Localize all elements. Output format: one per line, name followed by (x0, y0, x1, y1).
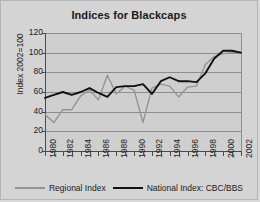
legend-label: National Index: CBC/BBS (147, 183, 243, 193)
series-layer (1, 1, 259, 201)
legend-entry[interactable]: Regional Index (15, 183, 106, 193)
legend-entry[interactable]: National Index: CBC/BBS (113, 183, 243, 193)
chart-legend: Regional IndexNational Index: CBC/BBS (1, 183, 257, 193)
chart-container: Indices for Blackcaps Index 2002=100 020… (0, 0, 258, 200)
legend-line-icon (113, 187, 143, 189)
series-line (45, 51, 241, 98)
legend-label: Regional Index (49, 183, 106, 193)
legend-line-icon (15, 187, 45, 189)
